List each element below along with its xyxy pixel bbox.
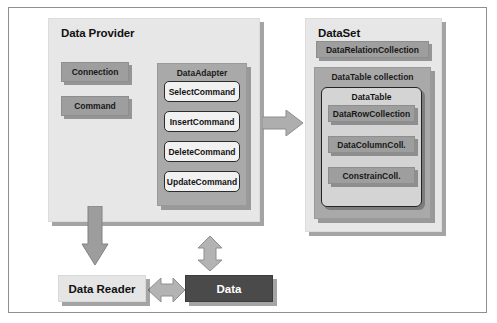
- provider-to-datareader-arrow: [81, 206, 109, 266]
- data-reader-box[interactable]: Data Reader: [58, 275, 146, 302]
- command-chip[interactable]: Command: [61, 96, 129, 116]
- data-box[interactable]: Data: [185, 275, 273, 302]
- data-relation-collection-chip[interactable]: DataRelationCollection: [316, 41, 429, 58]
- dataset-title: DataSet: [318, 27, 360, 39]
- dataset-to-data-arrow: [196, 236, 224, 272]
- data-provider-title: Data Provider: [61, 27, 134, 39]
- datareader-data-arrow: [148, 275, 186, 305]
- data-column-collection-chip[interactable]: DataColumnColl.: [328, 136, 415, 153]
- update-command-button[interactable]: UpdateCommand: [164, 171, 240, 192]
- adapter-to-dataset-arrow: [262, 110, 304, 136]
- select-command-button[interactable]: SelectCommand: [164, 81, 240, 102]
- delete-command-button[interactable]: DeleteCommand: [164, 141, 240, 162]
- diagram-canvas: Data Provider Connection Command DataAda…: [0, 0, 497, 323]
- datatable-title: DataTable: [322, 92, 421, 102]
- constraint-collection-chip[interactable]: ConstrainColl.: [328, 167, 415, 184]
- data-row-collection-chip[interactable]: DataRowCollection: [328, 105, 415, 122]
- connection-chip[interactable]: Connection: [61, 62, 129, 82]
- insert-command-button[interactable]: InsertCommand: [164, 111, 240, 132]
- data-adapter-title: DataAdapter: [158, 68, 246, 78]
- datatable-collection-title: DataTable collection: [315, 72, 430, 82]
